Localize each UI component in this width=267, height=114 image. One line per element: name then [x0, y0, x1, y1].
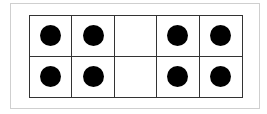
- ten-frame-cell: [200, 16, 242, 57]
- ten-frame-cell: [200, 57, 242, 98]
- counter-dot-icon: [210, 66, 231, 87]
- ten-frame-cell: [72, 57, 114, 98]
- ten-frame-cell: [115, 57, 157, 98]
- counter-dot-icon: [40, 25, 61, 46]
- counter-dot-icon: [83, 25, 104, 46]
- counter-dot-icon: [83, 66, 104, 87]
- ten-frame-cell: [115, 16, 157, 57]
- counter-dot-icon: [210, 25, 231, 46]
- ten-frame-cell: [72, 16, 114, 57]
- ten-frame-grid: [29, 15, 243, 98]
- counter-dot-icon: [40, 66, 61, 87]
- ten-frame-cell: [30, 16, 72, 57]
- ten-frame-cell: [30, 57, 72, 98]
- ten-frame-cell: [157, 16, 199, 57]
- counter-dot-icon: [167, 25, 188, 46]
- ten-frame-cell: [157, 57, 199, 98]
- counter-dot-icon: [167, 66, 188, 87]
